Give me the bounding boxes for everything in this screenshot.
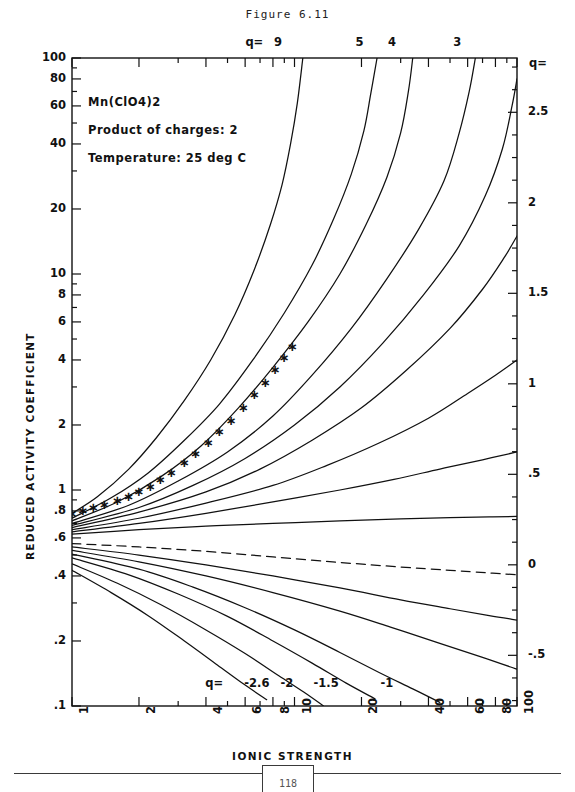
right-axis-tick-label: .5 [528, 466, 572, 480]
data-point-marker: ∗ [249, 387, 260, 402]
bottom-q-label: -1.5 [313, 676, 338, 690]
y-axis-tick-label: 10 [22, 266, 66, 280]
data-point-marker: ∗ [88, 500, 99, 515]
data-point-marker: ∗ [112, 493, 123, 508]
y-axis-title: REDUCED ACTIVITY COEFFICIENT [24, 333, 36, 561]
data-point-marker: ∗ [203, 435, 214, 450]
right-axis-tick-label: 2.5 [528, 104, 572, 118]
y-axis-tick-label: 8 [22, 287, 66, 301]
x-axis-tick-label: 10 [300, 698, 314, 714]
data-point-marker: ∗ [77, 503, 88, 518]
bottom-q-label: -1 [380, 676, 393, 690]
x-axis-tick-label: 100 [522, 690, 536, 714]
x-axis-tick-label: 60 [473, 698, 487, 714]
y-axis-tick-label: .4 [22, 568, 66, 582]
x-axis-title: IONIC STRENGTH [232, 750, 353, 762]
x-axis-tick-label: 8 [278, 706, 292, 714]
data-point-marker: ∗ [226, 413, 237, 428]
y-axis-tick-label: 80 [22, 71, 66, 85]
top-q-label: 3 [453, 35, 461, 49]
y-axis-tick-label: 60 [22, 98, 66, 112]
x-axis-tick-label: 1 [77, 706, 91, 714]
y-axis-tick-label: 20 [22, 201, 66, 215]
top-q-label: q= [245, 35, 263, 49]
bottom-q-label: q= [205, 676, 223, 690]
x-axis-tick-label: 20 [366, 698, 380, 714]
bottom-q-label: -2 [281, 676, 294, 690]
right-axis-tick-label: 2 [528, 195, 572, 209]
x-axis-tick-label: 40 [433, 698, 447, 714]
data-point-marker: ∗ [155, 472, 166, 487]
y-axis-tick-label: .2 [22, 633, 66, 647]
figure-page: Figure 6.11 ∗∗∗∗∗∗∗∗∗∗∗∗∗∗∗∗∗∗∗∗∗ Mn(ClO… [0, 0, 575, 792]
plot-canvas: ∗∗∗∗∗∗∗∗∗∗∗∗∗∗∗∗∗∗∗∗∗ [0, 0, 575, 792]
y-axis-tick-label: 6 [22, 314, 66, 328]
y-axis-tick-label: 40 [22, 136, 66, 150]
y-axis-tick-label: .8 [22, 503, 66, 517]
top-q-label: 9 [274, 35, 282, 49]
annotation-product-of-charges: Product of charges: 2 [88, 123, 238, 137]
right-axis-tick-label: -.5 [528, 647, 572, 661]
y-axis-tick-label: 1 [22, 482, 66, 496]
right-axis-tick-label: 1 [528, 376, 572, 390]
data-point-marker: ∗ [166, 465, 177, 480]
top-q-label: 5 [355, 35, 363, 49]
curve-q-1-5 [72, 360, 517, 530]
annotation-compound: Mn(ClO4)2 [88, 95, 161, 109]
top-q-label: 4 [388, 35, 396, 49]
y-axis-tick-label: .1 [22, 698, 66, 712]
data-point-marker: ∗ [134, 484, 145, 499]
data-point-marker: ∗ [99, 497, 110, 512]
page-number: 118 [262, 765, 314, 792]
curve-q-0-5 [72, 516, 517, 534]
annotation-temperature: Temperature: 25 deg C [88, 151, 247, 165]
bottom-q-label: -2.6 [244, 676, 269, 690]
data-point-marker: ∗ [287, 339, 298, 354]
right-axis-tick-label: 1.5 [528, 285, 572, 299]
data-point-marker: ∗ [238, 400, 249, 415]
data-point-marker: ∗ [179, 455, 190, 470]
x-axis-tick-label: 4 [211, 706, 225, 714]
x-axis-tick-label: 2 [144, 706, 158, 714]
data-point-marker: ∗ [67, 506, 78, 521]
y-axis-tick-label: 2 [22, 417, 66, 431]
x-axis-tick-label: 6 [250, 706, 264, 714]
y-axis-tick-label: .6 [22, 530, 66, 544]
y-axis-tick-label: 100 [22, 50, 66, 64]
right-axis-q-label: q= [529, 56, 547, 70]
curve-q-0 [72, 544, 517, 575]
right-axis-tick-label: 0 [528, 557, 572, 571]
x-axis-tick-label: 80 [500, 698, 514, 714]
data-point-marker: ∗ [190, 446, 201, 461]
data-point-marker: ∗ [214, 424, 225, 439]
y-axis-tick-label: 4 [22, 352, 66, 366]
